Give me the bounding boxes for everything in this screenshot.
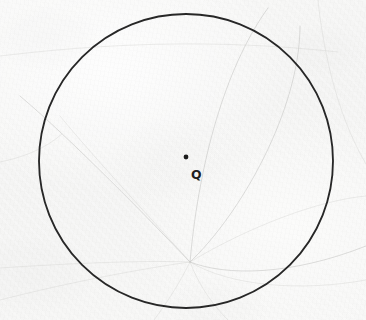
center-point-label: Q	[191, 169, 202, 182]
circle-layer	[0, 0, 366, 320]
circle-outline	[39, 14, 333, 308]
figure-canvas: Q	[0, 0, 366, 320]
center-point-dot	[184, 155, 189, 160]
